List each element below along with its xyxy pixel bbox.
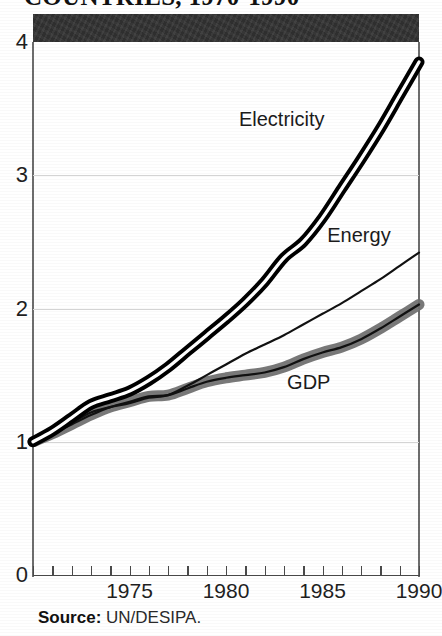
- series-label-gdp: GDP: [287, 372, 330, 392]
- series-energy-line: [33, 253, 419, 442]
- source-value: UN/DESIPA.: [101, 608, 201, 627]
- series-label-energy: Energy: [327, 225, 390, 245]
- series-electricity-outer: [33, 62, 419, 442]
- source-note: Source: UN/DESIPA.: [38, 608, 201, 628]
- source-label: Source:: [38, 608, 101, 627]
- series-label-electricity: Electricity: [239, 109, 325, 129]
- series-plot-area: [0, 0, 442, 636]
- series-electricity-core: [33, 62, 419, 442]
